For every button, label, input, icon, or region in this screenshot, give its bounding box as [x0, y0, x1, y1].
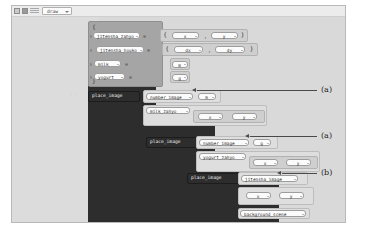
binding-name-jitensha_zahyo[interactable]: jitensha_zahyo [93, 32, 140, 39]
binding-name-yogurt[interactable]: yogurt [94, 73, 125, 80]
pair-x-1[interactable]: x [172, 32, 199, 39]
pair-dx[interactable]: dx [174, 46, 203, 53]
comma-1: , [204, 34, 207, 39]
pair-y-1[interactable]: y [211, 32, 238, 39]
lines-icon [30, 8, 39, 14]
arg-pos-x-2[interactable]: x [253, 159, 278, 166]
equals-sign-2: = [147, 48, 150, 53]
grid-icon[interactable] [14, 8, 20, 14]
value-g[interactable]: g [172, 74, 188, 81]
arg-pos-x-3[interactable]: x [246, 192, 271, 199]
brace-open: { [92, 24, 96, 30]
value-m[interactable]: m [172, 61, 188, 68]
paren-close-2: ) [250, 46, 253, 53]
arg-pos-x-1[interactable]: x [198, 113, 223, 120]
place-image-label-3: place_image [191, 174, 221, 182]
annotation-arrow-a1 [192, 88, 196, 92]
arg-number-image-param-1[interactable]: m [198, 93, 216, 100]
canvas-panel [12, 17, 99, 222]
annotation-label-b: (b) [321, 168, 332, 177]
place-image-label-1: place_image [92, 92, 122, 100]
screenshot-root: draw { } jitensha_zahyo = ( x , y ) jite… [0, 0, 366, 227]
row-nub [90, 63, 92, 66]
function-name-tag[interactable]: draw [42, 7, 72, 15]
equals-sign-1: = [143, 34, 146, 39]
annotation-label-a1: (a) [321, 85, 332, 94]
annotation-label-a2: (a) [321, 131, 332, 140]
pair-dy[interactable]: dy [215, 46, 245, 53]
binding-name-jitensha_houko[interactable]: jitensha_houko [96, 46, 144, 53]
arg-jitensha_image[interactable]: jitensha_image [241, 175, 298, 182]
editor-toolbar: draw [12, 6, 345, 17]
annotation-line-a2 [250, 136, 317, 137]
paren-close-1: ) [241, 32, 244, 39]
place-image-label-2: place_image [150, 138, 180, 146]
paren-open-1: ( [164, 32, 167, 39]
connector-marks-1: · · [70, 93, 77, 97]
arg-number-image-2[interactable]: number_image [199, 139, 249, 146]
arg-pos-y-2[interactable]: y [286, 159, 311, 166]
annotation-line-b [282, 173, 317, 174]
arg-yogurt_zahyo[interactable]: yogurt_zahyo [199, 153, 246, 160]
comma-2: , [208, 48, 211, 53]
stop-icon[interactable] [22, 8, 28, 14]
equals-sign-3: = [125, 62, 128, 67]
annotation-arrow-a2 [245, 134, 249, 138]
block-editor-window: draw { } jitensha_zahyo = ( x , y ) jite… [11, 5, 346, 223]
binding-name-milk[interactable]: milk [94, 60, 121, 67]
arg-pos-y-3[interactable]: y [279, 192, 304, 199]
paren-open-2: ( [166, 46, 169, 53]
arg-number-image-param-2[interactable]: g [253, 139, 271, 146]
arg-number-image-1[interactable]: number_image [146, 93, 193, 100]
row-nub [90, 49, 92, 52]
row-nub [90, 76, 92, 79]
arg-pos-y-1[interactable]: y [232, 113, 257, 120]
equals-sign-4: = [129, 75, 132, 80]
annotation-line-a1 [197, 90, 317, 91]
arg-milk_zahyo[interactable]: milk_zahyo [146, 107, 190, 114]
arg-background_scene[interactable]: background_scene [240, 210, 306, 217]
row-nub [90, 35, 92, 38]
annotation-arrow-b [277, 171, 281, 175]
